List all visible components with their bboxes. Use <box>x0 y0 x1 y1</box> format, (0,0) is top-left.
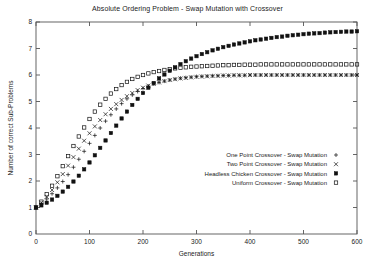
marker-filled-square <box>109 131 112 134</box>
marker-filled-square <box>222 45 225 48</box>
marker-square <box>264 63 267 66</box>
marker-filled-square <box>313 32 316 35</box>
marker-filled-square <box>34 206 37 209</box>
marker-square <box>77 135 80 138</box>
marker-square <box>141 73 144 76</box>
marker-square <box>61 164 64 167</box>
marker-square <box>195 65 198 68</box>
marker-filled-square <box>131 103 134 106</box>
marker-square <box>254 63 257 66</box>
marker-filled-square <box>339 30 342 33</box>
marker-filled-square <box>104 139 107 142</box>
marker-square <box>189 65 192 68</box>
marker-square <box>93 110 96 113</box>
marker-square <box>56 175 59 178</box>
marker-filled-square <box>227 44 230 47</box>
marker-square <box>248 63 251 66</box>
marker-filled-square <box>66 185 69 188</box>
marker-square <box>302 63 305 66</box>
y-tick-label: 3 <box>28 151 32 158</box>
marker-square <box>184 66 187 69</box>
x-tick-label: 200 <box>138 238 149 245</box>
marker-square <box>66 154 69 157</box>
marker-square <box>222 63 225 66</box>
marker-filled-square <box>77 174 80 177</box>
marker-square <box>334 181 337 184</box>
marker-filled-square <box>286 34 289 37</box>
marker-filled-square <box>318 31 321 34</box>
marker-filled-square <box>99 146 102 149</box>
marker-filled-square <box>291 34 294 37</box>
y-axis-label: Number of correct Sub-Problems <box>7 80 14 176</box>
y-tick-label: 7 <box>28 45 32 52</box>
y-tick-label: 4 <box>28 124 32 131</box>
marker-square <box>313 63 316 66</box>
marker-filled-square <box>179 62 182 65</box>
marker-square <box>120 83 123 86</box>
marker-square <box>147 72 150 75</box>
series-0 <box>34 73 359 210</box>
marker-square <box>238 63 241 66</box>
x-tick-label: 100 <box>84 238 95 245</box>
marker-square <box>179 66 182 69</box>
y-tick-label: 5 <box>28 98 32 105</box>
marker-filled-square <box>307 32 310 35</box>
marker-square <box>82 126 85 129</box>
marker-filled-square <box>216 47 219 50</box>
x-tick-label: 300 <box>191 238 202 245</box>
marker-filled-square <box>264 37 267 40</box>
marker-filled-square <box>115 124 118 127</box>
marker-square <box>329 63 332 66</box>
y-tick-label: 8 <box>28 18 32 25</box>
marker-filled-square <box>72 180 75 183</box>
legend-label-3: Uniform Crossover - Swap Mutation <box>232 180 327 186</box>
marker-square <box>50 184 53 187</box>
plot-frame <box>36 22 357 234</box>
marker-filled-square <box>45 201 48 204</box>
marker-filled-square <box>350 30 353 33</box>
marker-square <box>163 68 166 71</box>
marker-filled-square <box>334 30 337 33</box>
marker-filled-square <box>184 60 187 63</box>
marker-filled-square <box>232 43 235 46</box>
marker-filled-square <box>147 86 150 89</box>
marker-filled-square <box>125 110 128 113</box>
marker-square <box>345 63 348 66</box>
marker-square <box>275 63 278 66</box>
marker-filled-square <box>88 161 91 164</box>
marker-filled-square <box>345 30 348 33</box>
marker-filled-square <box>270 36 273 39</box>
marker-filled-square <box>248 40 251 43</box>
y-tick-label: 6 <box>28 71 32 78</box>
marker-square <box>307 63 310 66</box>
marker-filled-square <box>61 190 64 193</box>
chart-canvas: 1234567800100200300400500600GenerationsN… <box>0 0 375 271</box>
marker-square <box>152 70 155 73</box>
chart-container: Absolute Ordering Problem - Swap Mutatio… <box>0 0 375 271</box>
marker-filled-square <box>334 172 337 175</box>
marker-square <box>350 63 353 66</box>
marker-square <box>99 103 102 106</box>
marker-square <box>109 92 112 95</box>
marker-square <box>323 63 326 66</box>
marker-filled-square <box>238 42 241 45</box>
marker-square <box>243 63 246 66</box>
legend-marker-0 <box>334 153 338 157</box>
marker-square <box>200 65 203 68</box>
marker-filled-square <box>355 30 358 33</box>
legend-marker-1 <box>334 162 338 166</box>
legend-marker-2 <box>334 172 337 175</box>
marker-filled-square <box>243 41 246 44</box>
x-axis-label: Generations <box>179 250 215 257</box>
marker-filled-square <box>211 49 214 52</box>
marker-square <box>72 144 75 147</box>
y-tick-label: 2 <box>28 177 32 184</box>
x-tick-label: 400 <box>245 238 256 245</box>
marker-square <box>104 97 107 100</box>
marker-square <box>232 63 235 66</box>
series-1 <box>34 73 359 210</box>
marker-square <box>211 64 214 67</box>
marker-square <box>291 63 294 66</box>
marker-square <box>259 63 262 66</box>
legend-label-1: Two Point Crossover - Swap Mutation <box>227 161 327 167</box>
